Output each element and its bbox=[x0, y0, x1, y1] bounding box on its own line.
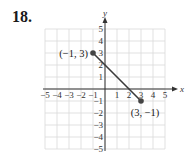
point-label: (3, −1) bbox=[131, 107, 160, 119]
y-tick-label: −2 bbox=[93, 108, 103, 118]
y-tick-label: −1 bbox=[93, 96, 103, 106]
x-tick-label: −4 bbox=[52, 90, 62, 100]
x-tick-label: −2 bbox=[76, 90, 86, 100]
coordinate-plane-chart: xy −5−4−3−2−11234554321−1−2−3−4−5 (−1, 3… bbox=[0, 0, 189, 154]
x-tick-label: −3 bbox=[64, 90, 74, 100]
y-tick-label: −5 bbox=[93, 144, 103, 154]
x-tick-label: −5 bbox=[40, 90, 50, 100]
y-tick-label: −3 bbox=[93, 120, 103, 130]
y-tick-label: 5 bbox=[99, 24, 104, 34]
x-tick-label: 5 bbox=[163, 90, 168, 100]
y-tick-label: −4 bbox=[93, 132, 103, 142]
x-axis-label: x bbox=[179, 84, 184, 94]
x-axis-arrow-icon bbox=[172, 87, 178, 92]
x-tick-label: 1 bbox=[115, 90, 120, 100]
axes: xy bbox=[43, 8, 184, 151]
point-label: (−1, 3) bbox=[59, 48, 88, 60]
data-point bbox=[90, 50, 96, 56]
y-tick-label: 4 bbox=[99, 36, 104, 46]
y-tick-label: 3 bbox=[99, 48, 104, 58]
y-tick-label: 1 bbox=[99, 72, 104, 82]
y-axis-label: y bbox=[102, 8, 107, 18]
x-tick-label: 4 bbox=[151, 90, 156, 100]
plotted-segment: (−1, 3)(3, −1) bbox=[59, 48, 160, 120]
data-point bbox=[138, 98, 144, 104]
